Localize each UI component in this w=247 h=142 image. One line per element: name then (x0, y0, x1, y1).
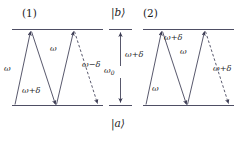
panel-1-number: (1) (22, 8, 37, 19)
panel-2-label-left-up: ω (152, 84, 159, 92)
panel-2-arrow-down-1 (163, 32, 187, 105)
panel-1-label-left-up: ω (4, 64, 11, 72)
panel-2-label-right-down: ω+δ (213, 64, 231, 72)
panel-2-arrow-up-2 (188, 32, 205, 105)
splitting-subscript: 0 (111, 69, 115, 76)
panel-1-arrow-up-2 (57, 32, 74, 105)
panel-2-label-mid-up: ω (180, 47, 187, 55)
panel-1-label-mid-down: ω+δ (22, 86, 40, 94)
panel-2-number: (2) (143, 8, 158, 19)
panel-2-arrow-up-1 (146, 32, 162, 105)
upper-state-ket: |b⟩ (111, 7, 125, 18)
panel-1-label-mid-up: ω (50, 44, 57, 52)
panel-1-label-right-down: ω−δ (82, 60, 100, 68)
center-detuning-label: ω+δ (125, 50, 143, 58)
figure-canvas: (1) ω ω+δ ω ω−δ |b⟩ |a⟩ ω0 ω+δ (2) ω+δ ω… (0, 0, 247, 142)
lower-state-ket: |a⟩ (111, 118, 125, 129)
panel-2-label-mid-down: ω+δ (164, 33, 182, 41)
level-splitting-label: ω0 (104, 66, 115, 74)
splitting-symbol: ω (104, 65, 111, 75)
